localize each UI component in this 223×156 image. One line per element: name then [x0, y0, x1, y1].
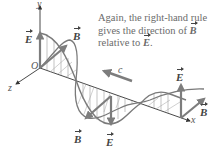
b-vector-origin: [40, 46, 66, 68]
caption-line-2: gives the direction of B: [98, 25, 223, 38]
caption-line-3: relative to E.: [98, 37, 223, 50]
caption-line-1: Again, the right-hand rule: [98, 12, 223, 25]
x-axis-label: x: [191, 114, 195, 125]
z-axis-label: z: [8, 82, 12, 93]
e-label-top-left: E: [25, 33, 32, 45]
origin-label: O: [31, 60, 38, 71]
caption: Again, the right-hand rule gives the dir…: [98, 12, 223, 50]
e-label-bottom: E: [106, 136, 113, 148]
e-label-right: E: [176, 71, 183, 83]
b-label-right: B: [200, 106, 207, 118]
y-axis-label: y: [37, 0, 41, 9]
b-label-top: B: [73, 30, 80, 42]
caption-e-vector: E: [143, 37, 150, 50]
caption-b-vector: B: [190, 25, 197, 38]
b-label-bottom: B: [74, 133, 81, 145]
speed-label: c: [118, 64, 122, 75]
